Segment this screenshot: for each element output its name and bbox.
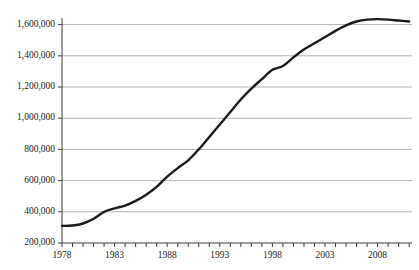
x-tick-label: 1978 — [53, 250, 72, 260]
x-tick-label: 2008 — [368, 250, 387, 260]
y-tick-label: 400,000 — [24, 206, 55, 216]
y-tick-label: 200,000 — [24, 237, 55, 247]
data-line — [62, 19, 409, 226]
x-tick-label: 1998 — [263, 250, 282, 260]
y-tick-label: 800,000 — [24, 144, 55, 154]
y-tick-label: 1,600,000 — [17, 19, 55, 29]
y-tick-label: 1,400,000 — [17, 50, 55, 60]
y-axis-tick-labels: 200,000400,000600,000800,0001,000,0001,2… — [17, 19, 55, 247]
y-axis-ticks — [58, 25, 62, 243]
x-axis-ticks — [62, 243, 409, 247]
x-tick-label: 1988 — [158, 250, 177, 260]
y-tick-label: 600,000 — [24, 175, 55, 185]
x-tick-label: 1993 — [210, 250, 229, 260]
y-tick-label: 1,200,000 — [17, 81, 55, 91]
x-axis-tick-labels: 1978198319881993199820032008 — [53, 250, 388, 260]
x-tick-label: 2003 — [316, 250, 335, 260]
y-tick-label: 1,000,000 — [17, 112, 55, 122]
data-series — [62, 19, 409, 226]
gridlines — [62, 25, 412, 212]
x-tick-label: 1983 — [105, 250, 124, 260]
chart-canvas: 200,000400,000600,000800,0001,000,0001,2… — [0, 0, 419, 270]
line-chart: 200,000400,000600,000800,0001,000,0001,2… — [0, 0, 419, 270]
